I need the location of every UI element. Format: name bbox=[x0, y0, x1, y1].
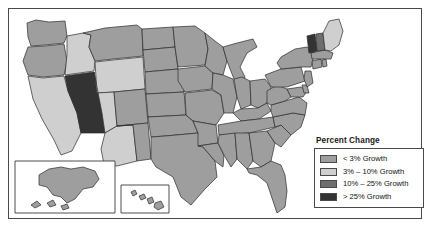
legend-row-0[interactable]: < 3% Growth bbox=[320, 153, 419, 166]
state-IA[interactable] bbox=[178, 66, 213, 92]
legend-label-10to25: 10% – 25% Growth bbox=[343, 180, 408, 188]
state-ND[interactable] bbox=[142, 27, 175, 50]
alaska-inset bbox=[15, 161, 115, 213]
legend-label-lt3: < 3% Growth bbox=[343, 155, 387, 163]
state-MN[interactable] bbox=[173, 26, 208, 67]
state-WY[interactable] bbox=[95, 57, 145, 93]
state-WI[interactable] bbox=[205, 33, 227, 75]
hawaii-inset-border bbox=[121, 185, 169, 213]
legend-label-3to10: 3% – 10% Growth bbox=[343, 168, 404, 176]
hawaii-inset bbox=[121, 185, 169, 213]
legend-title: Percent Change bbox=[316, 136, 424, 145]
state-CT[interactable] bbox=[312, 59, 322, 69]
state-WA[interactable] bbox=[27, 20, 67, 46]
legend-label-gt25: > 25% Growth bbox=[343, 193, 391, 201]
state-PA[interactable] bbox=[265, 67, 305, 87]
legend-box: < 3% Growth 3% – 10% Growth 10% – 25% Gr… bbox=[314, 148, 424, 208]
legend-swatch-3to10 bbox=[320, 168, 337, 176]
legend-row-1[interactable]: 3% – 10% Growth bbox=[320, 166, 419, 179]
state-CO[interactable] bbox=[114, 89, 148, 126]
map-frame: Percent Change < 3% Growth 3% – 10% Grow… bbox=[8, 8, 422, 219]
state-VT[interactable] bbox=[307, 34, 317, 53]
state-KS[interactable] bbox=[146, 92, 186, 117]
legend-swatch-10to25 bbox=[320, 180, 337, 188]
legend-row-3[interactable]: > 25% Growth bbox=[320, 191, 419, 204]
state-FL[interactable] bbox=[247, 161, 287, 213]
screenshot-root: Percent Change < 3% Growth 3% – 10% Grow… bbox=[0, 0, 431, 227]
state-NJ[interactable] bbox=[304, 71, 313, 87]
state-OR[interactable] bbox=[23, 44, 67, 77]
state-RI[interactable] bbox=[322, 59, 327, 67]
state-IN[interactable] bbox=[234, 77, 251, 109]
legend: Percent Change < 3% Growth 3% – 10% Grow… bbox=[314, 136, 424, 208]
legend-swatch-gt25 bbox=[320, 193, 337, 201]
legend-swatch-lt3 bbox=[320, 155, 337, 163]
legend-row-2[interactable]: 10% – 25% Growth bbox=[320, 178, 419, 191]
state-ME[interactable] bbox=[323, 19, 343, 51]
state-SD[interactable] bbox=[143, 47, 178, 72]
